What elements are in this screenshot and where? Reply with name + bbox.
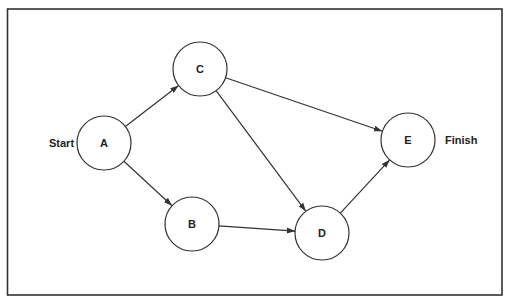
node-a: A <box>77 116 131 170</box>
node-label: C <box>196 63 204 75</box>
start-label: Start <box>49 137 74 149</box>
edge-a-to-c <box>125 86 178 127</box>
edge-d-to-e <box>340 160 389 213</box>
edge-a-to-b <box>124 161 172 205</box>
node-e: E <box>381 113 435 167</box>
node-c: C <box>173 42 227 96</box>
finish-label: Finish <box>445 134 478 146</box>
edges-group <box>124 78 390 231</box>
node-b: B <box>165 197 219 251</box>
edge-b-to-d <box>219 226 295 231</box>
network-diagram: ACBDE Start Finish <box>0 0 509 302</box>
node-label: B <box>188 218 196 230</box>
node-label: D <box>318 227 326 239</box>
edge-c-to-d <box>216 91 306 212</box>
node-d: D <box>295 206 349 260</box>
edge-c-to-e <box>226 78 383 132</box>
node-label: A <box>100 137 108 149</box>
node-label: E <box>404 134 411 146</box>
nodes-group: ACBDE <box>77 42 435 260</box>
